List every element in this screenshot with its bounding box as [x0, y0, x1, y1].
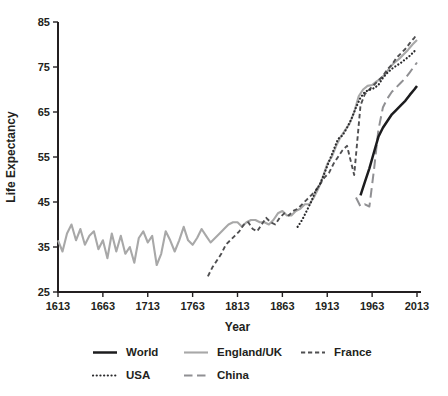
y-tick-label: 35 [38, 241, 50, 253]
legend-swatch-china-line [183, 371, 209, 380]
y-tick-label: 45 [38, 196, 50, 208]
series-line-world [361, 86, 418, 195]
legend-item-france: France [300, 347, 372, 359]
legend-swatch-world-line [92, 348, 118, 357]
series-line-france [208, 34, 417, 276]
y-tick-label: 55 [38, 151, 50, 163]
x-tick-label: 1613 [46, 300, 70, 312]
x-tick-label: 1913 [315, 300, 339, 312]
chart-figure: 2535455565758516131663171317631813186319… [0, 0, 448, 396]
y-tick-label: 85 [38, 16, 50, 28]
legend-label-usa: USA [126, 370, 150, 382]
legend: WorldEngland/UKFranceUSAChina [0, 341, 448, 387]
legend-label-england: England/UK [217, 347, 282, 359]
x-tick-label: 1663 [91, 300, 115, 312]
x-tick-label: 1713 [136, 300, 160, 312]
legend-item-china: China [183, 370, 300, 382]
axis-spines [58, 22, 421, 292]
legend-label-france: France [334, 347, 372, 359]
legend-swatch-usa-line [92, 371, 118, 380]
y-tick-label: 65 [38, 106, 50, 118]
y-tick-label: 25 [38, 286, 50, 298]
x-tick-label: 1963 [360, 300, 384, 312]
legend-item-england: England/UK [183, 347, 300, 359]
series-line-england [58, 40, 417, 265]
legend-label-china: China [217, 370, 249, 382]
legend-swatch-england-line [183, 348, 209, 357]
x-axis-title: Year [225, 320, 251, 334]
legend-row: USAChina [92, 364, 448, 387]
legend-item-world: World [92, 347, 183, 359]
y-axis-title: Life Expectancy [4, 111, 18, 203]
line-chart-canvas: 2535455565758516131663171317631813186319… [0, 0, 448, 340]
y-tick-label: 75 [38, 61, 50, 73]
legend-row: WorldEngland/UKFrance [92, 341, 448, 364]
legend-swatch-france-line [300, 348, 326, 357]
legend-label-world: World [126, 347, 158, 359]
x-tick-label: 1763 [180, 300, 204, 312]
x-tick-label: 1813 [225, 300, 249, 312]
x-tick-label: 2013 [405, 300, 429, 312]
legend-item-usa: USA [92, 370, 183, 382]
x-tick-label: 1863 [270, 300, 294, 312]
